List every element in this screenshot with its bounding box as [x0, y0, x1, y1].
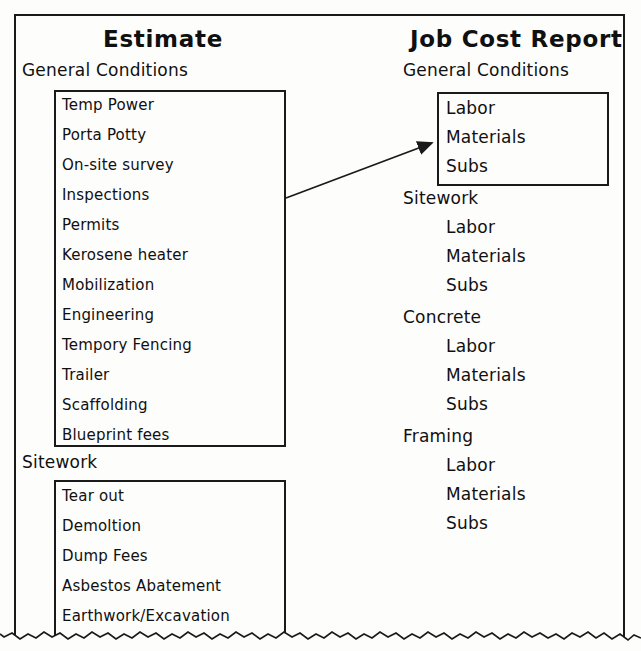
jobcost-group-label-general-conditions: General Conditions [403, 60, 569, 80]
list-item: Kerosene heater [62, 246, 188, 264]
estimate-column-title: Estimate [103, 26, 223, 52]
list-item: Scaffolding [62, 396, 148, 414]
list-item: Labor [446, 217, 495, 237]
list-item: Materials [446, 246, 526, 266]
jobcost-column-title: Job Cost Report [410, 26, 623, 52]
torn-paper-edge [0, 600, 641, 651]
jobcost-group-label-concrete: Concrete [403, 307, 481, 327]
list-item: Subs [446, 394, 488, 414]
list-item: Trailer [62, 366, 109, 384]
list-item: Subs [446, 275, 488, 295]
list-item: Asbestos Abatement [62, 577, 221, 595]
list-item: Dump Fees [62, 547, 148, 565]
list-item: Porta Potty [62, 126, 146, 144]
list-item: Materials [446, 365, 526, 385]
list-item: Blueprint fees [62, 426, 170, 444]
list-item: Subs [446, 513, 488, 533]
list-item: Tempory Fencing [62, 336, 192, 354]
jobcost-group-label-sitework: Sitework [403, 188, 478, 208]
list-item: On-site survey [62, 156, 174, 174]
diagram-page: Estimate General Conditions Temp Power P… [0, 0, 641, 651]
list-item: Labor [446, 455, 495, 475]
list-item: Engineering [62, 306, 154, 324]
list-item: Demoltion [62, 517, 141, 535]
list-item: Mobilization [62, 276, 154, 294]
list-item: Labor [446, 98, 495, 118]
list-item: Labor [446, 336, 495, 356]
list-item: Inspections [62, 186, 150, 204]
jobcost-group-label-framing: Framing [403, 426, 473, 446]
list-item: Materials [446, 484, 526, 504]
list-item: Temp Power [62, 96, 154, 114]
estimate-group-label-general-conditions: General Conditions [22, 60, 188, 80]
estimate-group-label-sitework: Sitework [22, 452, 97, 472]
list-item: Materials [446, 127, 526, 147]
list-item: Permits [62, 216, 120, 234]
list-item: Subs [446, 156, 488, 176]
list-item: Tear out [62, 487, 124, 505]
